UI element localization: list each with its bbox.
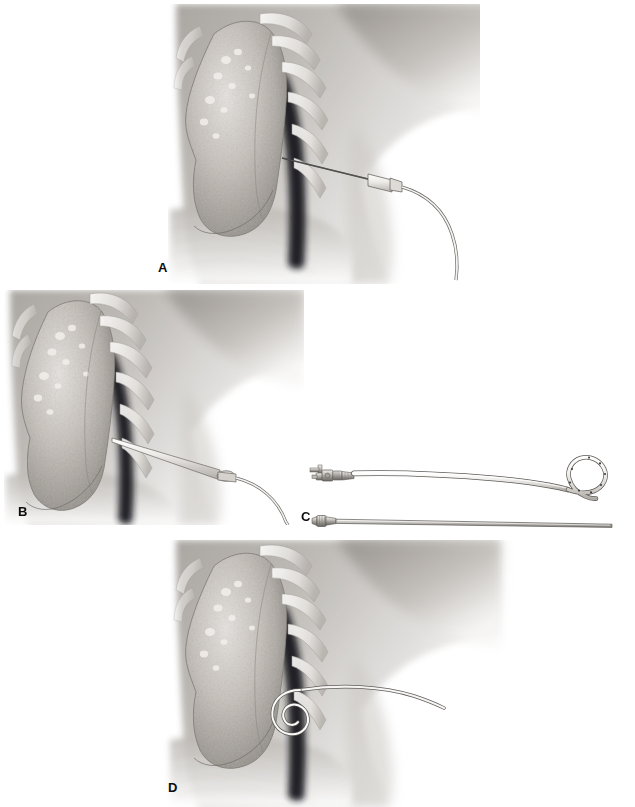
panel-d [150, 540, 520, 807]
panel-d-illustration [150, 540, 520, 807]
panel-label-a: A [158, 261, 168, 274]
panel-label-b: B [18, 505, 28, 518]
dilator-hub-b [217, 471, 236, 482]
panel-c [300, 445, 630, 540]
stopcock-hub-c [310, 465, 354, 481]
panel-b [4, 290, 304, 525]
pigtail-catheter-c [310, 457, 606, 499]
panel-a [140, 4, 500, 284]
panel-a-illustration [140, 4, 500, 284]
panel-label-c: C [301, 510, 311, 523]
figure-root: A [0, 0, 635, 807]
stiffening-stylet-c [312, 516, 612, 528]
panel-b-illustration [4, 290, 304, 525]
panel-c-illustration [300, 445, 630, 540]
pigtail-loop-c [568, 457, 606, 499]
stylet-hub-c [312, 516, 336, 527]
panel-label-d: D [168, 781, 178, 794]
